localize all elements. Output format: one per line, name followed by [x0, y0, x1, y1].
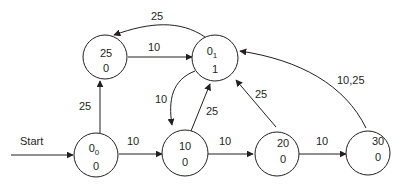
edge-label-10-to-20: 10 — [219, 135, 231, 147]
edge-0-1-to-25 — [114, 25, 205, 37]
nodes: 00 0 25 0 01 1 10 0 20 0 30 — [74, 35, 390, 177]
edge-label-0-0-to-10: 10 — [127, 135, 139, 147]
node-0-1: 01 1 — [192, 35, 238, 81]
edge-label-20-to-30: 10 — [316, 135, 328, 147]
node-30: 30 0 — [346, 131, 390, 175]
node-10-top: 10 — [179, 140, 191, 152]
node-25-top: 25 — [100, 47, 112, 59]
edge-label-10-to-0-1: 25 — [206, 105, 218, 117]
edge-label-25-to-0-1: 10 — [148, 41, 160, 53]
edge-0-1-to-10 — [171, 71, 195, 125]
edge-label-30-to-0-1: 10,25 — [337, 74, 365, 86]
node-25-bottom: 0 — [103, 62, 109, 74]
edge-label-0-1-to-25: 25 — [151, 10, 163, 22]
edge-label-0-1-to-10: 10 — [155, 93, 167, 105]
node-20-bottom: 0 — [280, 153, 286, 165]
edge-label-start: Start — [20, 135, 43, 147]
edge-label-0-0-to-25: 25 — [79, 100, 91, 112]
node-30-bottom: 0 — [375, 151, 381, 163]
node-0-0-bottom: 0 — [93, 160, 99, 172]
node-10-bottom: 0 — [182, 156, 188, 168]
node-20-top: 20 — [277, 137, 289, 149]
node-0-1-bottom: 1 — [212, 63, 218, 75]
node-10-circle — [162, 130, 208, 176]
node-0-0: 00 0 — [74, 133, 118, 177]
node-20: 20 0 — [255, 132, 299, 176]
node-25: 25 0 — [83, 35, 127, 79]
node-30-top: 30 — [372, 135, 384, 147]
node-10: 10 0 — [162, 130, 208, 176]
state-diagram: Start 25 10 10 25 10 25 10 25 10 10,25 — [0, 0, 416, 188]
edge-label-20-to-0-1: 25 — [255, 88, 267, 100]
